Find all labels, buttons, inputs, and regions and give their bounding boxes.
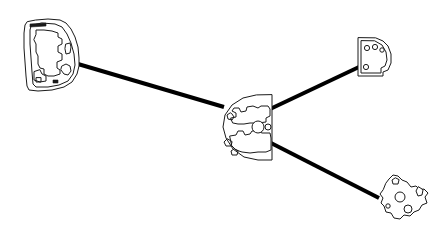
left-shape-mark-b [53,80,58,83]
bottom-right-circle-a [395,192,405,202]
center-hub-large-circle [252,121,264,133]
left-shape-top-bar-mark [30,23,46,27]
bottom-right-circle-c [386,204,390,208]
top-right-circle-c [380,48,384,52]
center-hub-small-circle [265,124,271,130]
top-right-outer-contour [358,38,391,76]
diagram-svg [0,0,442,235]
top-right-circle-d [363,64,368,69]
diagram-canvas [0,0,442,235]
top-right-circle-b [372,44,377,49]
node-top-right-quarter-disc[interactable] [358,38,391,76]
bottom-right-circle-b [404,205,412,213]
node-left-outline-shape[interactable] [24,19,79,91]
top-right-circle-a [364,45,369,50]
